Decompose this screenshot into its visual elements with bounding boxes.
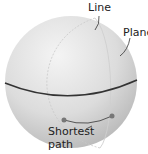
shortest-path-label-2: path	[48, 139, 73, 151]
path-point-b	[110, 114, 115, 119]
shortest-path-label-1: Shortest	[48, 126, 94, 138]
path-point-a	[62, 118, 67, 123]
plane-label: Plane	[123, 27, 148, 39]
line-label: Line	[88, 2, 111, 14]
